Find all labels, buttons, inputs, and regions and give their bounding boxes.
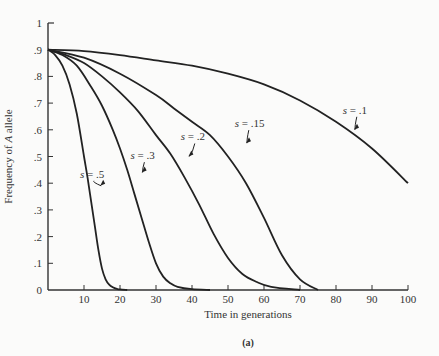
series-label: s = .15	[235, 117, 265, 129]
y-tick-label: .8	[34, 70, 43, 82]
y-tick-label: .2	[34, 231, 42, 243]
x-tick-label: 90	[367, 293, 379, 305]
series-label: s = .1	[343, 104, 367, 116]
x-tick-label: 80	[331, 293, 343, 305]
curve-1	[48, 50, 408, 184]
y-tick-label: 1	[37, 17, 43, 29]
series-label: s = .5	[80, 168, 105, 180]
y-tick-label: 0	[37, 284, 43, 296]
y-tick-label: .7	[34, 97, 43, 109]
x-tick-label: 10	[79, 293, 91, 305]
y-tick-label: .1	[34, 257, 42, 269]
x-tick-label: 50	[223, 293, 235, 305]
y-tick-label: .4	[34, 177, 43, 189]
y-tick-label: .9	[34, 44, 43, 56]
y-tick-label: .6	[34, 124, 43, 136]
label-arrow-icon	[94, 181, 102, 186]
series-label: s = .3	[130, 149, 155, 161]
y-tick-label: .3	[34, 204, 43, 216]
series-label: s = .2	[181, 130, 205, 142]
x-tick-label: 70	[295, 293, 307, 305]
x-tick-label: 20	[115, 293, 127, 305]
x-axis-title: Time in generations	[204, 308, 292, 320]
selection-chart: 0.1.2.3.4.5.6.7.8.9110203040506070809010…	[0, 0, 439, 356]
y-axis-title: Frequency of A allele	[2, 109, 14, 204]
x-tick-label: 40	[187, 293, 199, 305]
x-tick-label: 100	[400, 293, 417, 305]
y-tick-label: .5	[34, 151, 43, 163]
x-tick-label: 30	[151, 293, 163, 305]
figure-caption: (a)	[242, 337, 254, 349]
x-tick-label: 60	[259, 293, 271, 305]
curve-3	[48, 50, 210, 290]
